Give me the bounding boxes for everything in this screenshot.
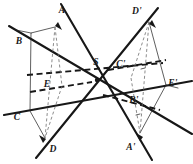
label-E: E [44,80,51,90]
outline-A-B-C-D [30,27,55,138]
construction-Dprime-to-Aprime [140,22,149,133]
center-point-S [95,78,99,82]
label-C-prime: C' [116,60,125,70]
label-B-prime: B' [129,96,138,106]
label-B: B [16,37,23,47]
label-D-prime: D' [132,7,142,17]
arrowhead-at-Aprime [136,133,143,141]
edge-E-lower-dash [30,82,92,92]
label-D: D [49,145,56,155]
label-A-prime: A' [126,143,135,153]
tick-near-Bprime [136,114,140,115]
line-C-Cprime-stroke [4,81,192,115]
label-A: A [59,6,66,16]
label-E-prime: E' [168,79,177,89]
polygon-ABCDE-dashed-edges [30,82,92,92]
figure-canvas [0,0,193,164]
geometry-figure: A B C D E S A' B' C' D' E' [0,0,193,164]
label-C: C [14,113,21,123]
tick-near-Cprime [141,68,145,69]
label-S: S [93,58,98,68]
arrowhead-at-A [55,22,62,30]
symmetry-line-C-Cprime [4,81,192,115]
